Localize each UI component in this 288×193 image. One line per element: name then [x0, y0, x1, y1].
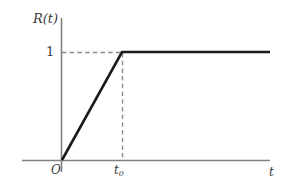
x-axis-label: t: [269, 166, 274, 178]
ramp-function-figure: R(t) 1 O t0 t: [0, 0, 288, 193]
y-tick-label-one: 1: [46, 45, 54, 58]
y-axis-label: R(t): [33, 12, 58, 25]
x-tick-label-t0-subscript: 0: [119, 169, 124, 178]
x-tick-label-t0: t0: [114, 164, 124, 178]
origin-label: O: [51, 164, 61, 176]
plot-canvas: [0, 0, 288, 193]
ramp-curve: [62, 52, 270, 160]
